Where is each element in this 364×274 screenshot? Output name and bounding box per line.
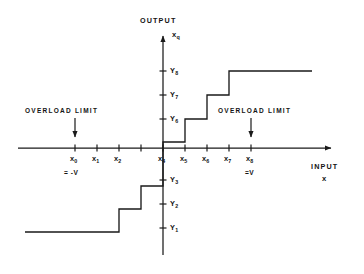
left-overload-value-label: = -V bbox=[64, 170, 78, 177]
y-tick-label-Y7-sub: 7 bbox=[175, 94, 178, 100]
x-axis-variable: x bbox=[322, 175, 326, 183]
x-tick-label-x6: x6 bbox=[202, 155, 209, 162]
y-tick-label-Y1: Y1 bbox=[170, 224, 178, 231]
x-tick-label-x6-sub: 6 bbox=[206, 158, 209, 164]
x-axis-variable-base: x bbox=[322, 174, 326, 183]
y-tick-label-Y3: Y3 bbox=[170, 176, 178, 183]
right-overload-limit-label: OVERLOAD LIMIT bbox=[218, 108, 291, 115]
y-tick-label-Y6: Y6 bbox=[170, 115, 178, 122]
x-tick-label-x0-sub: 0 bbox=[74, 158, 77, 164]
y-tick-label-Y3-sub: 3 bbox=[175, 179, 178, 185]
x-tick-label-x1: x1 bbox=[92, 155, 99, 162]
y-axis-variable: xq bbox=[172, 31, 180, 39]
quantizer-characteristic-figure: OUTPUT xq INPUT x x0 x1 x2 x4 x5 x6 x7 x… bbox=[0, 0, 364, 274]
x-tick-label-x4-sub: 4 bbox=[162, 158, 165, 164]
x-tick-label-x5: x5 bbox=[180, 155, 187, 162]
x-tick-label-x8: x8 bbox=[246, 155, 253, 162]
y-tick-label-Y1-sub: 1 bbox=[175, 227, 178, 233]
left-overload-limit-label: OVERLOAD LIMIT bbox=[25, 108, 98, 115]
plot-canvas bbox=[0, 0, 364, 274]
y-axis-variable-sub: q bbox=[176, 34, 179, 40]
y-tick-label-Y2-sub: 2 bbox=[175, 203, 178, 209]
x-tick-label-x2: x2 bbox=[114, 155, 121, 162]
x-tick-label-x1-sub: 1 bbox=[96, 158, 99, 164]
y-tick-label-Y8-sub: 8 bbox=[175, 70, 178, 76]
x-tick-label-x8-sub: 8 bbox=[250, 158, 253, 164]
quantizer-staircase-curve bbox=[25, 71, 312, 232]
x-axis-title: INPUT bbox=[311, 163, 338, 170]
x-tick-label-x7: x7 bbox=[224, 155, 231, 162]
x-tick-label-x5-sub: 5 bbox=[184, 158, 187, 164]
y-tick-label-Y7: Y7 bbox=[170, 91, 178, 98]
x-tick-label-x4: x4 bbox=[158, 155, 165, 162]
x-tick-label-x0: x0 bbox=[70, 155, 77, 162]
x-tick-label-x7-sub: 7 bbox=[228, 158, 231, 164]
x-tick-label-x2-sub: 2 bbox=[118, 158, 121, 164]
right-overload-value-label: =V bbox=[245, 170, 254, 177]
y-axis-title: OUTPUT bbox=[140, 17, 176, 24]
y-tick-label-Y8: Y8 bbox=[170, 67, 178, 74]
y-tick-label-Y6-sub: 6 bbox=[175, 118, 178, 124]
y-tick-label-Y2: Y2 bbox=[170, 200, 178, 207]
